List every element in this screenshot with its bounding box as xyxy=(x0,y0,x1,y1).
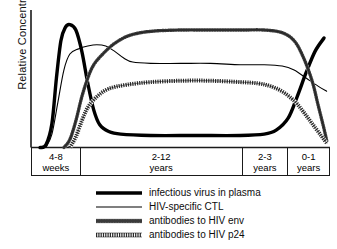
chart-legend: infectious virus in plasmaHIV-specific C… xyxy=(96,186,328,242)
hiv-infection-course-figure: Relative Concentration 4-8weeks2-12years… xyxy=(0,0,337,249)
legend-label: antibodies to HIV env xyxy=(149,215,244,227)
legend-label: antibodies to HIV p24 xyxy=(149,229,245,241)
zigzag-hatched-line-icon xyxy=(96,229,142,241)
legend-label: HIV-specific CTL xyxy=(149,201,223,213)
x-axis-phase-bands: 4-8weeks2-12years2-3years0-1years xyxy=(31,148,330,176)
x-axis-phase-2: 2-12years xyxy=(81,148,243,175)
phase-label-primary: 4-8 xyxy=(49,151,63,162)
series-curve xyxy=(40,25,324,148)
x-axis-phase-3: 2-3years xyxy=(243,148,289,175)
phase-label-unit: years xyxy=(253,162,276,173)
beaded-dotted-line-icon xyxy=(96,215,142,227)
series-layer xyxy=(40,25,327,148)
x-axis-phase-1: 4-8weeks xyxy=(32,148,81,175)
phase-label-primary: 2-3 xyxy=(258,151,272,162)
phase-label-primary: 0-1 xyxy=(302,151,316,162)
phase-label-unit: years xyxy=(150,162,173,173)
phase-label-primary: 2-12 xyxy=(152,151,171,162)
phase-label-unit: weeks xyxy=(42,162,69,173)
thick-solid-line-icon xyxy=(96,187,142,199)
phase-label-unit: years xyxy=(297,162,320,173)
legend-row: infectious virus in plasma xyxy=(96,186,328,200)
legend-label: infectious virus in plasma xyxy=(149,187,261,199)
series-curve xyxy=(46,45,327,148)
legend-row: antibodies to HIV env xyxy=(96,214,328,228)
x-axis-phase-4: 0-1years xyxy=(288,148,329,175)
legend-row: antibodies to HIV p24 xyxy=(96,228,328,242)
thin-solid-line-icon xyxy=(96,201,142,213)
legend-row: HIV-specific CTL xyxy=(96,200,328,214)
